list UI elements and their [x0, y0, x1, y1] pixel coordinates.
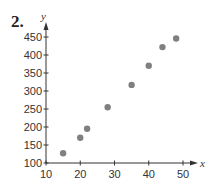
data-point — [146, 63, 152, 69]
data-point — [104, 104, 110, 110]
axes: yx1001502002503003504004501020304050 — [24, 10, 205, 180]
data-point — [173, 35, 179, 41]
y-tick-label: 250 — [24, 103, 42, 115]
x-axis-label: x — [199, 157, 205, 169]
data-points — [60, 35, 179, 156]
y-tick-label: 300 — [24, 85, 42, 97]
y-tick-label: 350 — [24, 67, 42, 79]
scatter-chart: yx1001502002503003504004501020304050 — [0, 0, 215, 185]
y-tick-label: 400 — [24, 49, 42, 61]
x-axis-arrow-icon — [190, 161, 198, 166]
x-tick-label: 40 — [143, 168, 155, 180]
y-tick-label: 450 — [24, 31, 42, 43]
x-tick-label: 20 — [74, 168, 86, 180]
data-point — [77, 135, 83, 141]
data-point — [128, 82, 134, 88]
y-axis-label: y — [40, 10, 46, 22]
data-point — [159, 44, 165, 50]
data-point — [84, 126, 90, 132]
y-tick-label: 200 — [24, 121, 42, 133]
x-tick-label: 30 — [108, 168, 120, 180]
y-axis-arrow-icon — [44, 22, 49, 30]
x-tick-label: 10 — [40, 168, 52, 180]
x-tick-label: 50 — [177, 168, 189, 180]
data-point — [60, 150, 66, 156]
y-tick-label: 150 — [24, 139, 42, 151]
